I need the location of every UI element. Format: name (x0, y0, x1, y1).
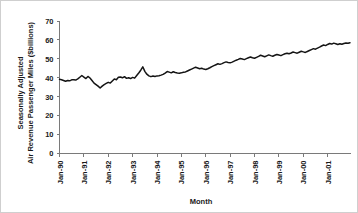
y-tick-label: 20 (45, 111, 53, 120)
x-tick-label: Jan-95 (177, 161, 186, 185)
line-chart: 010203040506070 Jan-90Jan-91Jan-92Jan-93… (1, 1, 358, 213)
x-tick-label: Jan-01 (324, 161, 333, 185)
x-axis-title: Month (190, 197, 213, 206)
x-tick-label: Jan-92 (104, 161, 113, 185)
x-tick-label: Jan-99 (275, 161, 284, 185)
y-tick-label: 70 (45, 17, 53, 26)
x-tick-labels: Jan-90Jan-91Jan-92Jan-93Jan-94Jan-95Jan-… (56, 160, 333, 185)
x-tick-label: Jan-00 (299, 161, 308, 185)
y-tick-label: 30 (45, 93, 53, 102)
y-tick-label: 10 (45, 130, 53, 139)
x-tick-label: Jan-98 (251, 161, 260, 185)
x-tick-label: Jan-93 (129, 161, 138, 185)
y-tick-label: 0 (49, 149, 53, 158)
y-tick-label: 50 (45, 55, 53, 64)
y-axis-title-line2: Air Revenue Passenger Miles ($billions) (26, 21, 35, 164)
x-tick-label: Jan-91 (80, 161, 89, 185)
y-tick-label: 60 (45, 36, 53, 45)
x-tick-label: Jan-96 (202, 161, 211, 185)
y-axis-title-line1: Seasonally Adjusted (16, 56, 25, 129)
chart-container: 010203040506070 Jan-90Jan-91Jan-92Jan-93… (0, 0, 358, 213)
y-tick-label: 40 (45, 74, 53, 83)
data-series-line (60, 43, 351, 88)
x-tick-label: Jan-97 (226, 161, 235, 185)
y-tick-labels: 010203040506070 (45, 17, 53, 159)
x-tick-label: Jan-94 (153, 160, 162, 185)
x-tick-label: Jan-90 (56, 161, 65, 185)
